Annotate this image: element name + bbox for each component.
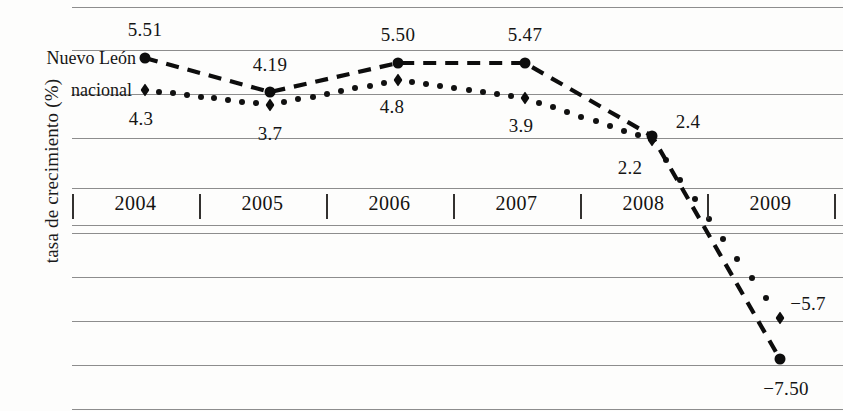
nacional-trail-dot — [508, 93, 514, 99]
nuevo-leon-value-label-2009: −7.50 — [763, 378, 808, 400]
nuevo-leon-point-2006 — [393, 58, 404, 69]
gridline — [72, 409, 843, 410]
gridline — [72, 277, 843, 278]
nuevo-leon-value-label-2004: 5.51 — [128, 19, 162, 41]
nacional-trail-dot — [763, 295, 769, 301]
nacional-trail-dot — [310, 94, 316, 100]
nacional-value-label-2007: 3.9 — [509, 115, 534, 137]
nacional-value-label-2004: 4.3 — [129, 108, 154, 130]
nacional-trail-dot — [367, 83, 373, 89]
nacional-trail-dot — [352, 85, 358, 91]
nacional-value-label-2008: 2.2 — [618, 157, 643, 179]
nacional-point-2005 — [266, 99, 275, 112]
nacional-trail-dot — [593, 118, 599, 124]
nuevo-leon-value-label-2008: 2.4 — [676, 111, 701, 133]
nacional-point-2009 — [776, 312, 785, 325]
nuevo-leon-point-2005 — [265, 87, 276, 98]
nacional-trail-dot — [295, 96, 301, 102]
nuevo-leon-point-2004 — [140, 53, 151, 64]
nacional-trail-dot — [536, 100, 542, 106]
nacional-trail-dot — [480, 89, 486, 95]
gridline — [72, 7, 843, 8]
nacional-point-2006 — [394, 74, 403, 87]
nacional-value-label-2006: 4.8 — [380, 96, 405, 118]
nacional-trail-dot — [578, 114, 584, 120]
nuevo-leon-value-label-2005: 4.19 — [253, 54, 287, 76]
legend-label-nacional: nacional — [71, 80, 132, 101]
gridline — [72, 365, 843, 366]
gridline — [72, 50, 843, 51]
year-label-2006: 2006 — [326, 192, 453, 215]
year-label-2007: 2007 — [453, 192, 580, 215]
legend-label-nuevo-leon: Nuevo León — [47, 48, 136, 69]
gridline — [72, 138, 843, 139]
nuevo-leon-point-2007 — [520, 58, 531, 69]
gridline — [72, 225, 843, 226]
nacional-trail-dot — [749, 275, 755, 281]
nacional-trail-dot — [635, 132, 641, 138]
nacional-trail-dot — [211, 95, 217, 101]
nacional-trail-dot — [225, 97, 231, 103]
year-label-2008: 2008 — [580, 192, 707, 215]
nacional-trail-dot — [184, 92, 190, 98]
gridline — [72, 321, 843, 322]
nacional-trail-dot — [663, 157, 669, 163]
nacional-trail-dot — [564, 109, 570, 115]
nacional-trail-dot — [324, 91, 330, 97]
nuevo-leon-value-label-2007: 5.47 — [508, 24, 542, 46]
nuevo-leon-point-2009 — [775, 354, 786, 365]
nacional-value-label-2005: 3.7 — [258, 123, 283, 145]
nacional-trail-dot — [466, 87, 472, 93]
year-tick — [834, 194, 836, 219]
year-axis-band: 200420052006200720082009 — [72, 188, 843, 225]
nacional-trail-dot — [170, 90, 176, 96]
nacional-trail-dot — [720, 236, 726, 242]
nacional-trail-dot — [607, 123, 613, 129]
nacional-trail-dot — [451, 85, 457, 91]
year-label-2005: 2005 — [199, 192, 326, 215]
nacional-trail-dot — [198, 94, 204, 100]
year-label-2009: 2009 — [707, 192, 834, 215]
nacional-trail-dot — [550, 104, 556, 110]
nacional-trail-dot — [239, 99, 245, 105]
gridline — [72, 233, 843, 234]
nacional-trail-dot — [423, 81, 429, 87]
nacional-trail-dot — [338, 88, 344, 94]
chart-figure: tasa de crecimiento (%) 5.514.195.505.47… — [0, 0, 843, 411]
nacional-trail-dot — [437, 83, 443, 89]
nacional-trail-dot — [494, 91, 500, 97]
nuevo-leon-value-label-2006: 5.50 — [381, 24, 415, 46]
nacional-trail-dot — [734, 256, 740, 262]
nacional-trail-dot — [677, 177, 683, 183]
nacional-trail-dot — [621, 128, 627, 134]
nacional-trail-dot — [381, 80, 387, 86]
nacional-trail-dot — [409, 79, 415, 85]
year-label-2004: 2004 — [72, 192, 199, 215]
nacional-trail-dot — [281, 99, 287, 105]
nacional-trail-dot — [253, 100, 259, 106]
nacional-value-label-2009: −5.7 — [790, 293, 826, 315]
nacional-trail-dot — [156, 89, 162, 95]
